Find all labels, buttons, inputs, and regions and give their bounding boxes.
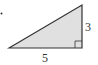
height-label: 3 bbox=[85, 20, 91, 34]
triangle-diagram: 5 3 bbox=[0, 0, 98, 65]
base-label: 5 bbox=[42, 51, 48, 65]
right-triangle bbox=[9, 5, 82, 48]
bullet-dot bbox=[1, 13, 3, 15]
